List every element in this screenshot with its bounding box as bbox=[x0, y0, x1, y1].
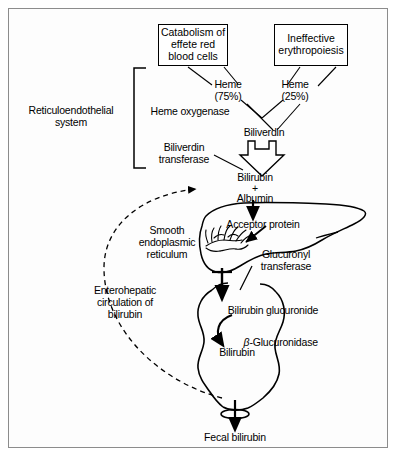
reticuloendothelial-bracket bbox=[134, 68, 146, 168]
line-ineffective-right bbox=[318, 67, 336, 86]
line-heme25-down bbox=[262, 100, 283, 118]
beta-glucuronidase-label: β-Glucuronidase bbox=[217, 325, 339, 349]
biliverdin-transferase-label: Biliverdin transferase bbox=[147, 142, 221, 166]
heme-75-label: Heme (75%) bbox=[205, 79, 251, 103]
box-catabolism-label: Catabolism of effete red blood cells bbox=[159, 27, 227, 63]
fecal-bilirubin-label: Fecal bilirubin bbox=[180, 432, 290, 444]
biliverdin-label: Biliverdin bbox=[228, 127, 300, 139]
smooth-endoplasmic-reticulum-label: Smooth endoplasmic reticulum bbox=[127, 225, 207, 260]
glucuronyl-transferase-label: Glucuronyl transferase bbox=[243, 249, 329, 273]
heme-oxygenase-label: Heme oxygenase bbox=[140, 106, 240, 118]
glucuronidase-text: -Glucuronidase bbox=[249, 336, 317, 348]
acceptor-protein-label: Acceptor protein bbox=[213, 219, 313, 231]
bilirubin-glucuronide-label: Bilirubin glucuronide bbox=[213, 305, 333, 317]
bilirubin-gut-label: Bilirubin bbox=[204, 347, 270, 359]
box-ineffective-label: Ineffective erythropoiesis bbox=[275, 33, 347, 57]
box-ineffective-erythropoiesis: Ineffective erythropoiesis bbox=[274, 24, 348, 66]
albumin-label: Albumin bbox=[224, 193, 286, 205]
box-catabolism-red-cells: Catabolism of effete red blood cells bbox=[158, 24, 228, 66]
enterohepatic-circulation-label: Enterohepatic circulation of bilirubin bbox=[78, 285, 172, 320]
heme-25-label: Heme (25%) bbox=[272, 79, 318, 103]
intestine-top-left-flap bbox=[212, 283, 228, 290]
reticuloendothelial-system-label: Reticuloendothelial system bbox=[14, 105, 128, 129]
intestine-top-right-flap bbox=[260, 284, 276, 292]
